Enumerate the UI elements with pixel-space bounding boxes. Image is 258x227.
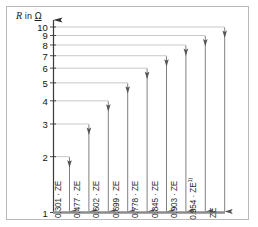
y-tick-label: 3 [22, 118, 48, 129]
y-tick-label: 10 [22, 22, 48, 33]
gridlines-group [54, 27, 225, 157]
arrow-label: 0.903 · ZE [170, 180, 179, 217]
footnote-marker: 1) [188, 177, 194, 182]
arrow-label: 0.778 · ZE [131, 180, 140, 217]
arrow-label: 0.477 · ZE [73, 180, 82, 217]
arrow-label: 0.699 · ZE [112, 180, 121, 217]
y-tick-label: 5 [22, 77, 48, 88]
y-tick-label: 4 [22, 95, 48, 106]
arrow-label: 0.301 · ZE [54, 180, 63, 217]
figure-container: R in Ω 12345678910 0.301 · ZE0.477 · ZE0… [0, 0, 258, 227]
arrow-label: 0.602 · ZE [92, 180, 101, 217]
arrow-label: 0.845 · ZE [151, 180, 160, 217]
y-tick-label: 8 [22, 39, 48, 50]
arrow-label: ZE [209, 207, 218, 217]
y-tick-label: 7 [22, 50, 48, 61]
y-tick-label: 1 [22, 207, 48, 218]
arrow-label: 0.954 · ZE1) [188, 177, 199, 219]
y-tick-label: 6 [22, 63, 48, 74]
y-tick-label: 2 [22, 151, 48, 162]
